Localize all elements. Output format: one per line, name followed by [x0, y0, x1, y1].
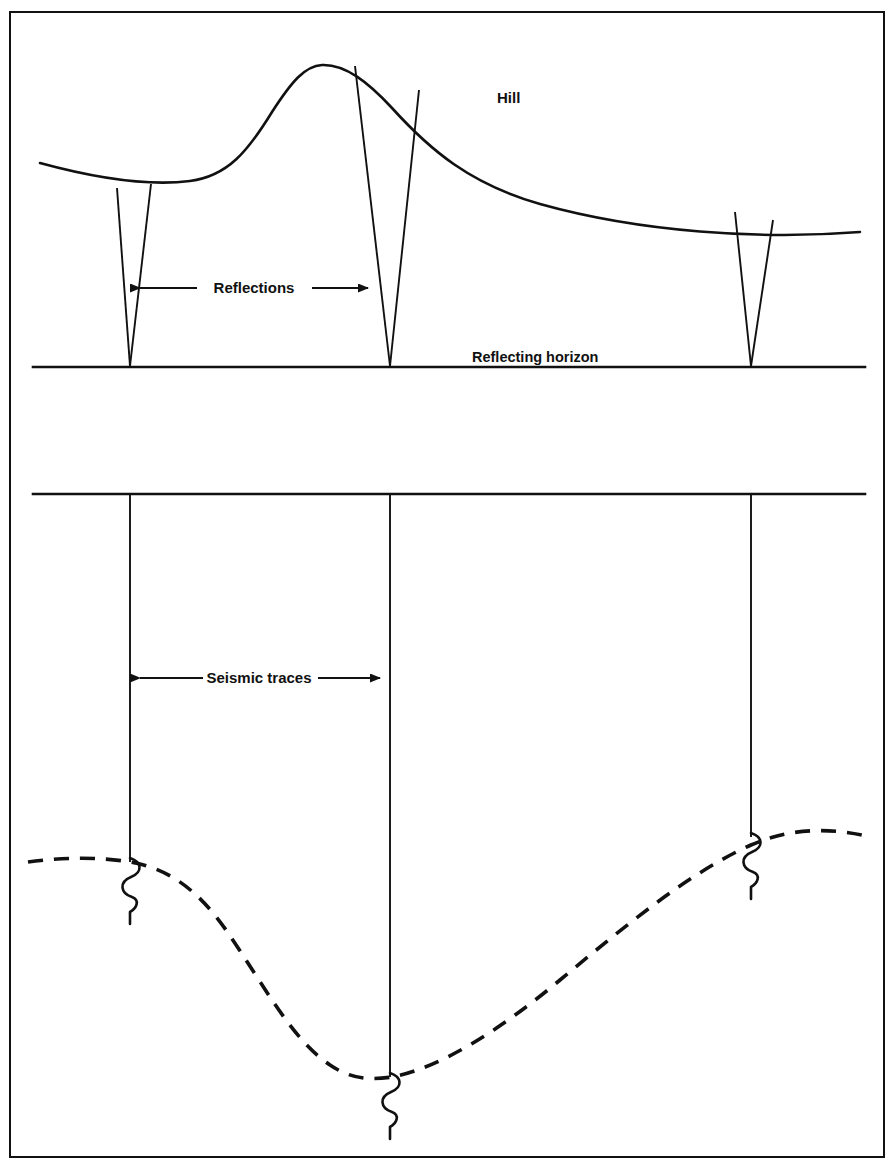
- seismic-reflection-figure: Reflections Hill Reflecting horizon Seis…: [0, 0, 892, 1166]
- wavelet-left: [122, 858, 139, 924]
- ray-up-right: [751, 220, 773, 366]
- hill-surface-curve: [40, 65, 860, 235]
- upper-panel-ray-diagram: Reflections Hill Reflecting horizon: [33, 65, 865, 367]
- figure-frame-border: [10, 12, 884, 1157]
- lower-panel-seismic-section: Seismic traces: [28, 494, 865, 1139]
- reflection-ray-pair-left: [117, 184, 151, 366]
- wavelet-center: [382, 1073, 399, 1139]
- ray-down-left: [117, 188, 130, 366]
- ray-up-left: [130, 184, 151, 366]
- ray-down-center: [355, 66, 390, 366]
- dashed-reflector-event: [28, 831, 862, 1079]
- ray-up-center: [390, 90, 419, 366]
- reflections-label: Reflections: [214, 279, 295, 296]
- seismic-traces-label: Seismic traces: [206, 669, 311, 686]
- reflection-ray-pair-center: [355, 66, 419, 366]
- reflecting-horizon-label: Reflecting horizon: [472, 349, 598, 365]
- hill-label: Hill: [497, 89, 520, 106]
- figure-canvas: Reflections Hill Reflecting horizon Seis…: [0, 0, 892, 1166]
